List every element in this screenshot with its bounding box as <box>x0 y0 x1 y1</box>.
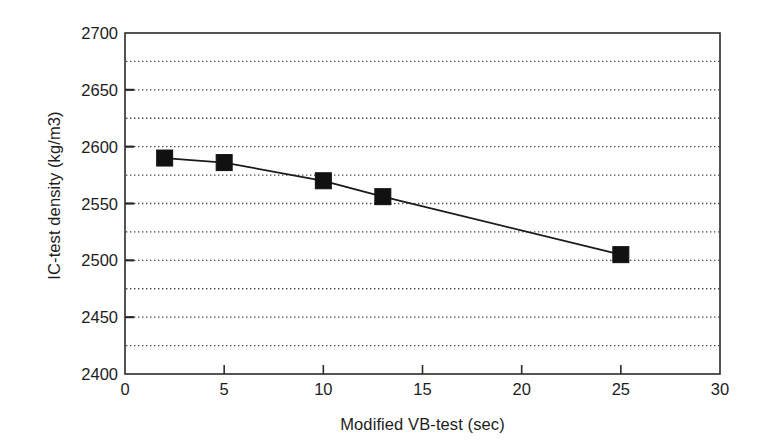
x-tick-label: 5 <box>194 381 254 397</box>
x-tick-label: 0 <box>95 381 155 397</box>
data-point-marker <box>375 189 391 205</box>
x-tick-label: 15 <box>393 381 453 397</box>
plot-area <box>0 0 764 447</box>
x-tick-label: 25 <box>591 381 651 397</box>
data-point-marker <box>613 247 629 263</box>
x-tick-label: 30 <box>690 381 750 397</box>
chart-figure: IC-test density (kg/m3) 2400245025002550… <box>0 0 764 447</box>
gridlines <box>126 61 719 345</box>
series-line <box>165 158 621 255</box>
x-tick-label: 20 <box>492 381 552 397</box>
x-tick-label: 10 <box>293 381 353 397</box>
series-markers <box>157 150 629 263</box>
data-point-marker <box>216 155 232 171</box>
data-point-marker <box>315 173 331 189</box>
data-point-marker <box>157 150 173 166</box>
x-axis-tick-labels: 051015202530 <box>0 381 764 411</box>
x-axis-title: Modified VB-test (sec) <box>125 415 720 434</box>
